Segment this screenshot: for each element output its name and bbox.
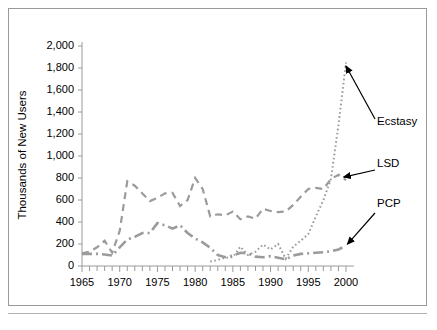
series-line-pcp <box>82 223 346 259</box>
axis-lines <box>78 42 354 272</box>
bottom-divider <box>8 313 427 314</box>
series-line-ecstasy <box>210 63 346 262</box>
annotation-arrow-pcp <box>347 213 375 244</box>
annotation-arrow-lsd <box>344 170 375 177</box>
series-lines <box>82 63 346 262</box>
figure-frame: Thousands of New Users 02004006008001,00… <box>8 8 427 306</box>
chart-svg <box>9 9 428 307</box>
series-line-lsd <box>82 175 346 254</box>
annotation-arrows <box>344 66 375 244</box>
chart-plot-area: Thousands of New Users 02004006008001,00… <box>9 9 428 307</box>
annotation-arrow-ecstasy <box>346 66 375 119</box>
